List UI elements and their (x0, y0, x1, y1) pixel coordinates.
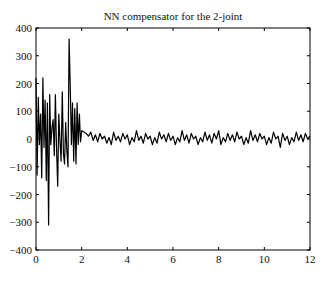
y-tick-label: 200 (16, 78, 33, 90)
x-tick-label: 4 (125, 253, 131, 265)
y-tick-label: −200 (9, 189, 32, 201)
plot-area: 024681012 −400−300−200−1000100200300400 (9, 22, 315, 265)
x-tick-label: 6 (170, 253, 176, 265)
y-tick-label: 100 (16, 105, 33, 117)
chart-title: NN compensator for the 2-joint (104, 10, 243, 22)
chart: NN compensator for the 2-joint 024681012… (0, 0, 326, 281)
x-tick-label: 10 (259, 253, 271, 265)
y-tick-label: −100 (9, 161, 32, 173)
y-tick-label: 0 (27, 133, 33, 145)
y-tick-label: −400 (9, 244, 32, 256)
data-line (36, 39, 310, 225)
x-tick-label: 8 (216, 253, 222, 265)
y-tick-label: −300 (9, 216, 32, 228)
x-tick-label: 2 (79, 253, 85, 265)
y-tick-label: 300 (16, 50, 33, 62)
y-tick-label: 400 (16, 22, 33, 34)
x-tick-label: 12 (305, 253, 316, 265)
x-tick-label: 0 (33, 253, 39, 265)
